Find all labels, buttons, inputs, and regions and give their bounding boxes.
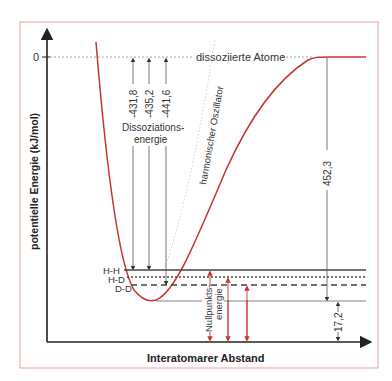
- harmonic-oscillator-label: harmonischer Oszillator: [197, 85, 225, 185]
- potential-energy-diagram: 0 dissoziierte Atome harmonischer Oszill…: [0, 0, 392, 381]
- y-axis-label: potentielle Energie (kJ/mol): [28, 113, 40, 250]
- well-depth-value: 452,3: [322, 161, 333, 186]
- zero-point-value: 17,2: [333, 312, 344, 332]
- x-axis-label: Interatomarer Abstand: [147, 352, 265, 364]
- dissociated-atoms-label: dissoziierte Atome: [196, 51, 285, 63]
- zero-tick-label: 0: [33, 51, 39, 63]
- zero-point-energy-label-2: energie: [213, 288, 224, 320]
- frame: [20, 22, 378, 368]
- dissociation-energy-label-1: Dissoziations-: [122, 122, 184, 133]
- dissociation-energy-hh: -431,8: [128, 89, 139, 118]
- dissociation-energy-dd: -441,6: [161, 89, 172, 118]
- dissociation-energy-label-2: energie: [134, 134, 168, 145]
- dissociation-energy-hd: -435,2: [144, 89, 155, 118]
- level-label-dd: D-D: [115, 283, 132, 294]
